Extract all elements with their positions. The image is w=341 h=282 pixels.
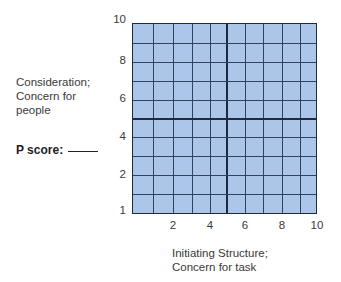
y-axis-label-line-1: Consideration; (16, 75, 90, 89)
y-tick-6: 6 (106, 92, 126, 104)
grid-line (133, 137, 316, 138)
x-axis-label: Initiating Structure; Concern for task (172, 246, 268, 274)
x-tick-4: 4 (200, 219, 220, 231)
grid-midline-horizontal (133, 118, 316, 120)
x-tick-2: 2 (163, 219, 183, 231)
y-tick-2: 2 (106, 168, 126, 180)
y-tick-4: 4 (106, 130, 126, 142)
x-tick-10: 10 (307, 219, 327, 231)
x-axis-label-line-2: Concern for task (172, 260, 268, 274)
grid-line (133, 194, 316, 195)
grid-line (133, 62, 316, 63)
leadership-grid (132, 23, 317, 214)
y-axis-label-line-3: people (16, 103, 90, 117)
p-score-label: P score: (16, 143, 63, 157)
y-axis-label-line-2: Concern for (16, 89, 90, 103)
y-tick-8: 8 (106, 54, 126, 66)
x-tick-8: 8 (272, 219, 292, 231)
grid-line (133, 156, 316, 157)
p-score-field: P score: (16, 143, 98, 157)
y-tick-10: 10 (106, 13, 126, 25)
y-tick-1: 1 (106, 204, 126, 216)
grid-line (133, 175, 316, 176)
grid-line (133, 81, 316, 82)
x-tick-6: 6 (235, 219, 255, 231)
grid-line (133, 100, 316, 101)
x-axis-label-line-1: Initiating Structure; (172, 246, 268, 260)
y-axis-label: Consideration; Concern for people (16, 75, 90, 117)
p-score-blank[interactable] (68, 151, 98, 152)
grid-line (133, 43, 316, 44)
